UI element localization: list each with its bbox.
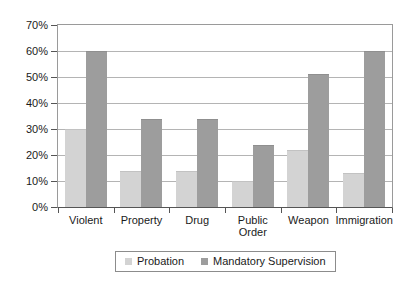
y-tick-label-30: 30% xyxy=(0,124,48,135)
chart-legend: Probation Mandatory Supervision xyxy=(115,251,336,272)
legend-swatch-mandatory-supervision xyxy=(201,258,208,265)
y-tick-label-10: 10% xyxy=(0,176,48,187)
x-tick-mark xyxy=(281,208,282,213)
x-tick-mark xyxy=(392,208,393,213)
y-tick-mark-40 xyxy=(51,103,57,104)
bar-probation xyxy=(343,173,364,207)
bar-group xyxy=(114,25,170,207)
bar-mandatory-supervision xyxy=(308,74,329,207)
bar-probation xyxy=(176,171,197,207)
bar-probation xyxy=(120,171,141,207)
bar-group xyxy=(225,25,281,207)
legend-item-mandatory-supervision: Mandatory Supervision xyxy=(201,255,326,267)
bar-probation xyxy=(65,129,86,207)
bar-mandatory-supervision xyxy=(141,119,162,207)
x-tick-mark xyxy=(58,208,59,213)
legend-item-probation: Probation xyxy=(125,255,184,267)
y-tick-mark-70 xyxy=(51,25,57,26)
x-tick-label-immigration: Immigration xyxy=(330,214,398,226)
legend-label-mandatory-supervision: Mandatory Supervision xyxy=(213,255,326,267)
y-tick-label-20: 20% xyxy=(0,150,48,161)
bar-probation xyxy=(232,181,253,207)
bar-mandatory-supervision xyxy=(364,51,385,207)
y-tick-mark-0 xyxy=(51,207,57,208)
y-axis: 0%10%20%30%40%50%60%70% xyxy=(0,0,48,284)
bar-group xyxy=(281,25,337,207)
y-tick-label-70: 70% xyxy=(0,20,48,31)
bar-mandatory-supervision xyxy=(253,145,274,207)
x-tick-mark xyxy=(225,208,226,213)
x-tick-mark xyxy=(169,208,170,213)
y-tick-mark-20 xyxy=(51,155,57,156)
bar-group xyxy=(169,25,225,207)
y-tick-label-50: 50% xyxy=(0,72,48,83)
bar-mandatory-supervision xyxy=(86,51,107,207)
bars-layer xyxy=(58,25,392,207)
grouped-bar-chart: 0%10%20%30%40%50%60%70% Probation Mandat… xyxy=(0,0,410,284)
y-tick-label-60: 60% xyxy=(0,46,48,57)
bar-group xyxy=(336,25,392,207)
y-tick-mark-60 xyxy=(51,51,57,52)
bar-group xyxy=(58,25,114,207)
legend-label-probation: Probation xyxy=(137,255,184,267)
bar-mandatory-supervision xyxy=(197,119,218,207)
y-tick-label-40: 40% xyxy=(0,98,48,109)
bar-probation xyxy=(287,150,308,207)
y-tick-mark-10 xyxy=(51,181,57,182)
y-tick-mark-50 xyxy=(51,77,57,78)
x-tick-mark xyxy=(114,208,115,213)
y-tick-mark-30 xyxy=(51,129,57,130)
legend-swatch-probation xyxy=(125,258,132,265)
x-tick-mark xyxy=(336,208,337,213)
y-tick-label-0: 0% xyxy=(0,202,48,213)
